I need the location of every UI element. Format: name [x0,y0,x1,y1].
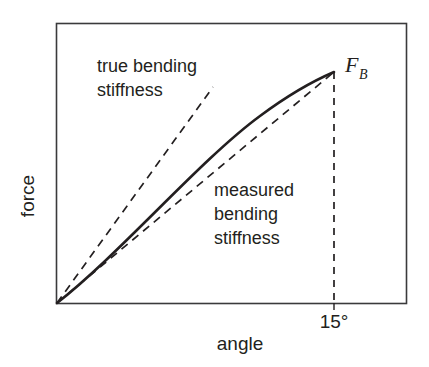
annotation-true-bending-stiffness-line-2: stiffness [97,80,163,100]
y-axis-label: force [17,175,38,217]
endpoint-symbol-base: F [344,52,359,77]
annotation-true-bending-stiffness-line-1: true bending [97,56,197,76]
annotation-measured-bending-stiffness-line-2: bending [214,204,278,224]
endpoint-symbol-subscript: B [359,67,368,82]
annotation-measured-bending-stiffness-line-1: measured [214,180,294,200]
x-axis-label: angle [217,333,264,354]
bending-stiffness-chart: force angle 15° true bending stiffness m… [0,0,429,367]
x-tick-label-15deg: 15° [320,311,349,332]
figure-container: force angle 15° true bending stiffness m… [0,0,429,367]
annotation-measured-bending-stiffness-line-3: stiffness [214,228,280,248]
true-bending-stiffness-line [57,87,213,303]
